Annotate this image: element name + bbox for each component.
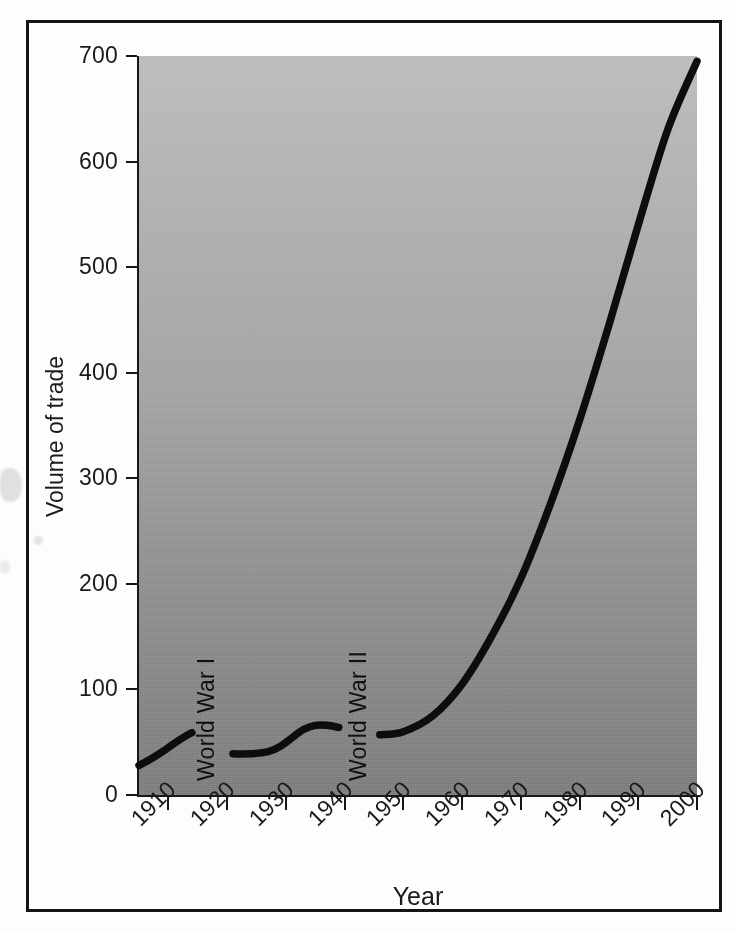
y-axis-tick xyxy=(126,266,137,268)
y-axis-tick-label-wrap: 500 xyxy=(44,255,118,278)
y-axis-tick xyxy=(126,372,137,374)
y-axis-tick-label: 700 xyxy=(44,44,118,67)
y-axis-tick-label-wrap: 600 xyxy=(44,150,118,173)
y-axis-tick-label: 100 xyxy=(44,677,118,700)
y-axis-tick-label-wrap: 100 xyxy=(44,677,118,700)
y-axis-tick-label: 600 xyxy=(44,150,118,173)
y-axis-tick-label: 500 xyxy=(44,255,118,278)
curve-segment-pre-World-War-I xyxy=(139,733,192,766)
y-axis-tick xyxy=(126,794,137,796)
y-axis-tick-label: 200 xyxy=(44,572,118,595)
y-axis-tick xyxy=(126,161,137,163)
curve-segment-interwar xyxy=(233,725,339,754)
line-chart: 0100200300400500600700 19101920193019401… xyxy=(0,0,736,932)
y-axis-tick-label: 0 xyxy=(44,783,118,806)
curve-segment-post-World-War-II xyxy=(380,61,697,735)
y-axis-tick xyxy=(126,688,137,690)
data-curve xyxy=(139,56,697,795)
y-axis-title: Volume of trade xyxy=(44,327,67,547)
y-axis-tick xyxy=(126,55,137,57)
x-axis-title: Year xyxy=(139,884,697,909)
y-axis-tick-label-wrap: 700 xyxy=(44,44,118,67)
y-axis-tick xyxy=(126,583,137,585)
y-axis-tick xyxy=(126,477,137,479)
y-axis-tick-label-wrap: 0 xyxy=(44,783,118,806)
y-axis-tick-label-wrap: 200 xyxy=(44,572,118,595)
